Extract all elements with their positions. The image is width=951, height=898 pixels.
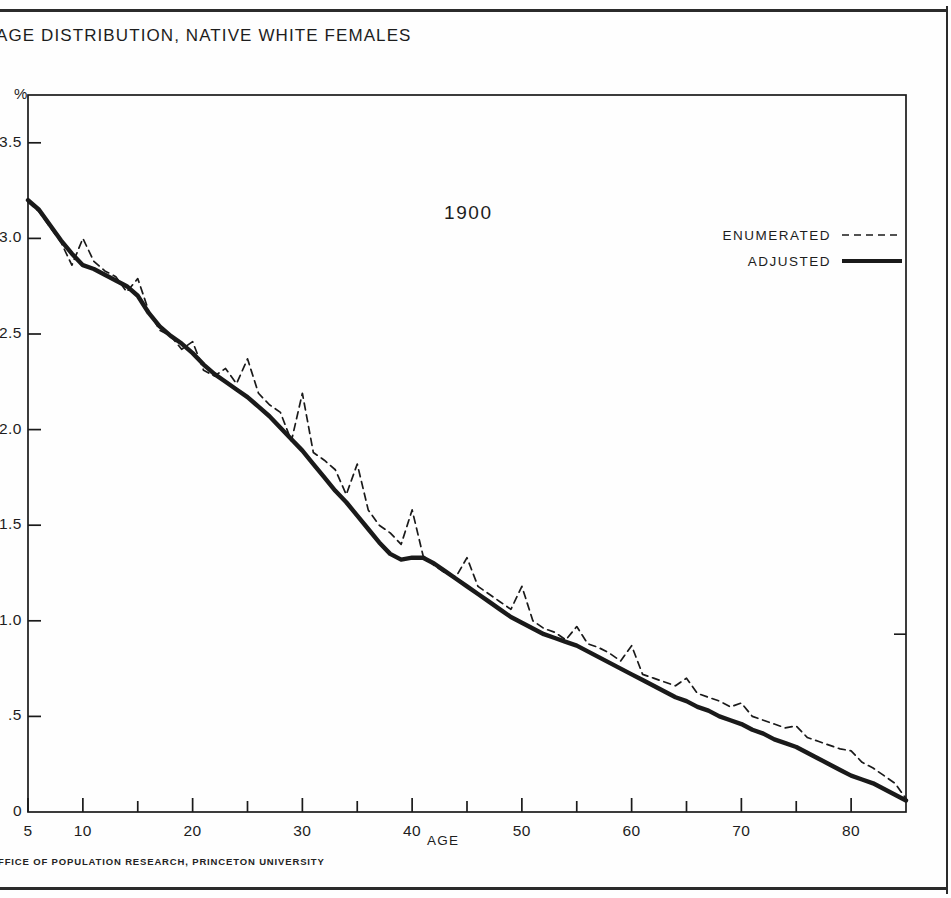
x-tick-label: 40 (390, 822, 434, 840)
y-axis-unit-label: % (14, 85, 27, 102)
y-tick-label: 3.5 (0, 133, 22, 151)
x-tick-label: 5 (6, 822, 50, 840)
data-series-group (28, 200, 906, 800)
x-tick-label: 30 (280, 822, 324, 840)
x-tick-label: 20 (171, 822, 215, 840)
legend-item-adjusted: ADJUSTED (663, 248, 903, 274)
y-tick-label: 1.0 (0, 611, 22, 629)
series-line-enumerated (28, 202, 906, 799)
y-tick-label: 2.0 (0, 420, 22, 438)
series-line-adjusted (28, 200, 906, 800)
footer-credit: FFICE OF POPULATION RESEARCH, PRINCETON … (0, 856, 325, 867)
chart-svg (0, 0, 951, 898)
x-tick-label: 60 (610, 822, 654, 840)
legend-label-enumerated: ENUMERATED (722, 228, 831, 243)
y-tick-label: 2.5 (0, 324, 22, 342)
y-tick-label: 1.5 (0, 515, 22, 533)
y-tick-label: 0 (0, 802, 22, 820)
chart-plot-area: % AGE 1900 0.51.01.52.02.53.03.5 5102030… (0, 0, 951, 898)
y-tick-label: .5 (0, 706, 22, 724)
legend-swatch-dashed-icon (841, 229, 903, 241)
x-tick-label: 80 (829, 822, 873, 840)
x-tick-label: 50 (500, 822, 544, 840)
x-tick-label: 10 (61, 822, 105, 840)
chart-legend: ENUMERATED ADJUSTED (663, 222, 903, 274)
year-annotation: 1900 (444, 202, 493, 224)
legend-item-enumerated: ENUMERATED (663, 222, 903, 248)
legend-swatch-solid-icon (841, 255, 903, 267)
legend-label-adjusted: ADJUSTED (748, 254, 831, 269)
x-tick-label: 70 (719, 822, 763, 840)
y-tick-label: 3.0 (0, 228, 22, 246)
